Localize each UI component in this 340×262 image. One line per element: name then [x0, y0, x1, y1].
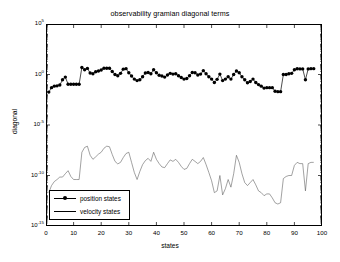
x-tick-label: 60 — [197, 229, 227, 236]
x-tick-label: 20 — [86, 229, 116, 236]
y-tick-label: 10-10 — [20, 172, 44, 178]
x-tick-label: 70 — [224, 229, 254, 236]
series-markers-position-states — [47, 66, 315, 94]
legend-item-velocity-states[interactable]: velocity states — [50, 205, 131, 219]
y-tick-label: 100 — [20, 71, 44, 77]
y-axis-label: diagonal — [11, 92, 18, 152]
chart-title: observability gramian diagonal terms — [0, 9, 340, 18]
x-tick-label: 40 — [141, 229, 171, 236]
y-tick-label: 105 — [20, 20, 44, 26]
legend-label-position: position states — [80, 195, 121, 202]
legend[interactable]: position states velocity states — [49, 190, 130, 220]
x-tick-label: 30 — [114, 229, 144, 236]
y-axis-ticks: 10510010-510-1010-15 — [14, 0, 44, 262]
y-tick-label: 10-5 — [20, 121, 44, 127]
y-tick-label: 10-15 — [20, 222, 44, 228]
legend-label-velocity: velocity states — [80, 208, 120, 215]
x-tick-label: 80 — [252, 229, 282, 236]
x-tick-label: 90 — [279, 229, 309, 236]
x-tick-label: 10 — [59, 229, 89, 236]
legend-marker-position — [63, 196, 67, 200]
figure-canvas: observability gramian diagonal terms 105… — [0, 0, 340, 262]
legend-line-sample-velocity — [54, 211, 76, 212]
legend-item-position-states[interactable]: position states — [50, 192, 131, 206]
x-tick-label: 100 — [307, 229, 337, 236]
x-axis-label: states — [0, 242, 340, 249]
series-line-position-states — [49, 67, 314, 92]
x-tick-label: 50 — [169, 229, 199, 236]
x-tick-label: 0 — [31, 229, 61, 236]
